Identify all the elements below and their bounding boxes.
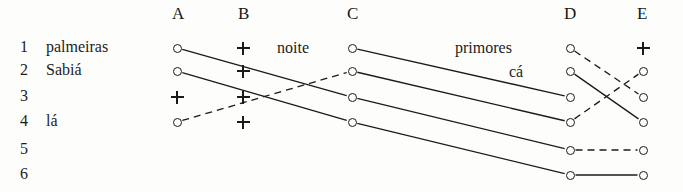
annotation-noite: noite	[277, 39, 309, 57]
edge-a2-to-c4	[182, 73, 346, 121]
edge-c2-to-d4	[357, 72, 564, 121]
node-d2-circle-icon[interactable]	[566, 67, 575, 76]
node-d1-circle-icon[interactable]	[566, 44, 575, 53]
node-a3-plus-icon[interactable]	[171, 91, 184, 104]
node-d5-circle-icon[interactable]	[566, 146, 575, 155]
annotation-primores: primores	[455, 39, 512, 57]
edge-c4-to-d6	[357, 123, 564, 173]
row-number-2: 2	[14, 61, 28, 79]
row-word-2: Sabiá	[46, 61, 82, 79]
node-c4-circle-icon[interactable]	[348, 118, 357, 127]
column-header-c: C	[347, 4, 359, 24]
node-c3-circle-icon[interactable]	[348, 93, 357, 102]
row-number-5: 5	[14, 140, 28, 158]
node-e3-circle-icon[interactable]	[639, 93, 648, 102]
node-b3-plus-icon[interactable]	[237, 91, 250, 104]
annotation-ca: cá	[509, 63, 523, 81]
node-a1-circle-icon[interactable]	[173, 44, 182, 53]
node-a4-circle-icon[interactable]	[173, 118, 182, 127]
node-d6-circle-icon[interactable]	[566, 171, 575, 180]
edge-d2-to-e4	[575, 74, 639, 119]
column-header-a: A	[172, 4, 185, 24]
row-number-6: 6	[14, 165, 28, 183]
node-e1-plus-icon[interactable]	[637, 42, 650, 55]
node-e2-circle-icon[interactable]	[639, 67, 648, 76]
node-b4-plus-icon[interactable]	[237, 116, 250, 129]
column-header-b: B	[238, 4, 250, 24]
row-number-1: 1	[14, 38, 28, 56]
node-e6-circle-icon[interactable]	[639, 171, 648, 180]
row-word-4: lá	[46, 112, 58, 130]
column-header-e: E	[637, 4, 648, 24]
edge-d1-to-e3	[575, 51, 639, 94]
node-c1-circle-icon[interactable]	[348, 44, 357, 53]
node-e5-circle-icon[interactable]	[639, 146, 648, 155]
edge-a4-to-c2	[182, 73, 346, 121]
node-c2-circle-icon[interactable]	[348, 67, 357, 76]
node-b2-plus-icon[interactable]	[237, 65, 250, 78]
column-header-d: D	[564, 4, 577, 24]
row-number-3: 3	[14, 87, 28, 105]
node-b1-plus-icon[interactable]	[237, 42, 250, 55]
node-d4-circle-icon[interactable]	[566, 118, 575, 127]
node-d3-circle-icon[interactable]	[566, 93, 575, 102]
edge-a1-to-c3	[182, 49, 346, 95]
edge-c3-to-d5	[357, 98, 564, 148]
alignment-diagram: ABCDE 1palmeiras2Sabiá34lá56 noiteprimor…	[0, 0, 683, 192]
node-a2-circle-icon[interactable]	[173, 67, 182, 76]
edge-d4-to-e2	[575, 74, 639, 119]
node-e4-circle-icon[interactable]	[639, 118, 648, 127]
row-word-1: palmeiras	[46, 38, 108, 56]
row-number-4: 4	[14, 112, 28, 130]
edge-lines-layer	[0, 0, 683, 192]
